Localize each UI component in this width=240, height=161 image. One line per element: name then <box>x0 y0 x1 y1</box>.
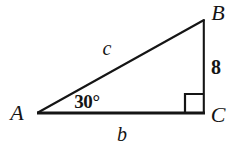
right-angle-marker-icon <box>185 94 204 113</box>
angle-label-a: 30° <box>74 92 100 111</box>
vertex-label-c: C <box>211 104 226 126</box>
side-hypotenuse-line <box>38 20 204 113</box>
vertex-label-a: A <box>10 102 23 124</box>
side-label-hypotenuse: c <box>103 38 112 58</box>
side-length-vertical: 8 <box>211 57 221 77</box>
side-label-base: b <box>117 124 127 144</box>
right-triangle-figure: A B C c b 8 30° <box>0 0 240 161</box>
vertex-label-b: B <box>211 2 224 24</box>
